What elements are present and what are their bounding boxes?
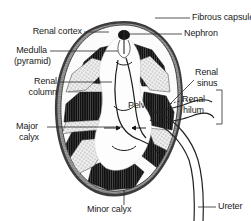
kidney-anatomy-figure: Renal cortex Medulla (pyramid) Renal col… (0, 0, 251, 221)
label-medulla-line2: (pyramid) (0, 56, 51, 67)
label-nephron: Nephron (184, 28, 244, 39)
label-renal-sinus-line1: Renal (195, 67, 245, 78)
label-fibrous-capsule: Fibrous capsule (192, 12, 251, 23)
label-major-calyx-line1: Major (16, 121, 76, 132)
label-renal-sinus-line2: sinus (197, 78, 247, 89)
label-renal-cortex: Renal cortex (0, 26, 82, 37)
label-renal-column-line2: column (0, 87, 57, 98)
label-ureter: Ureter (218, 201, 251, 212)
label-pelvis: Pelvis (128, 100, 168, 111)
label-minor-calyx: Minor calyx (87, 204, 157, 215)
label-medulla-line1: Medulla (0, 45, 47, 56)
label-renal-hilum-line2: hilum (183, 105, 233, 116)
label-major-calyx-line2: calyx (19, 132, 79, 143)
label-renal-column-line1: Renal (0, 76, 57, 87)
label-renal-hilum-line1: Renal (182, 94, 232, 105)
